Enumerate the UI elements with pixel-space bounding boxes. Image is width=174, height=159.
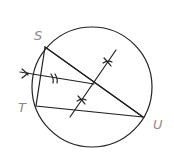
construction-arc-marks [22,58,112,104]
arc-mark-bisector-left [22,69,28,78]
circumscribed-circle [32,27,152,147]
geometry-diagram: S T U [0,0,174,159]
label-t: T [18,100,27,115]
arc-mark-lower [77,96,86,104]
label-s: S [34,28,42,43]
label-u: U [153,117,163,132]
triangle-stu [36,47,143,117]
arc-mark-bisector-middle [51,74,57,83]
diagram-canvas: S T U [0,0,174,159]
arc-mark-upper [103,58,112,66]
